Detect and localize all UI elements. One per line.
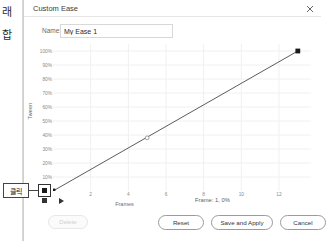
x-tick-label: 4 <box>127 192 130 197</box>
close-icon[interactable] <box>304 3 316 15</box>
stop-icon[interactable] <box>40 196 49 205</box>
annotation-click-label: 클릭 <box>3 183 29 198</box>
y-tick-label: 10% <box>42 175 52 180</box>
y-tick-label: 70% <box>42 91 52 96</box>
name-label: Name: <box>42 27 61 34</box>
y-tick-label: 60% <box>42 105 52 110</box>
dialog-footer: Delete Reset Save and Apply Cancel <box>24 210 321 241</box>
x-tick-label: 6 <box>165 192 168 197</box>
y-tick-label: 40% <box>42 133 52 138</box>
y-tick-label: 90% <box>42 63 52 68</box>
curve-svg[interactable] <box>53 44 311 191</box>
play-icon[interactable] <box>57 196 66 205</box>
x-tick-label: 2 <box>89 192 92 197</box>
ease-graph: Tween 10%20%30%40%50%60%70%80%90%100% 24… <box>24 40 321 195</box>
play-icon-shape <box>59 198 64 204</box>
background-text-fragment-1: 래 <box>2 3 12 19</box>
name-input[interactable] <box>60 24 173 38</box>
transport-controls <box>40 196 66 205</box>
background-text-fragment-2: 합 <box>2 26 12 42</box>
x-tick-label: 10 <box>239 192 244 197</box>
y-tick-label: 50% <box>42 119 52 124</box>
save-and-apply-button[interactable]: Save and Apply <box>211 215 273 230</box>
dialog-title: Custom Ease <box>33 4 78 13</box>
curve-plot-area[interactable] <box>53 44 311 191</box>
custom-ease-dialog: Custom Ease Name: Tween 10%20%30%40%50%6… <box>23 0 320 241</box>
y-axis-tick-labels: 10%20%30%40%50%60%70%80%90%100% <box>30 40 52 190</box>
reset-button[interactable]: Reset <box>158 215 204 230</box>
stop-icon-shape <box>42 198 47 203</box>
annotation-target-highlight[interactable] <box>38 184 51 197</box>
start-handle-marker <box>42 188 47 193</box>
delete-button[interactable]: Delete <box>48 215 88 229</box>
cancel-button[interactable]: Cancel <box>280 215 326 230</box>
dialog-titlebar: Custom Ease <box>24 0 321 17</box>
frame-status-readout: Frame: 1, 0% <box>195 197 230 203</box>
y-tick-label: 20% <box>42 161 52 166</box>
y-tick-label: 80% <box>42 77 52 82</box>
y-tick-label: 30% <box>42 147 52 152</box>
y-tick-label: 100% <box>40 49 52 54</box>
name-row: Name: <box>24 24 321 38</box>
x-tick-label: 12 <box>276 192 281 197</box>
